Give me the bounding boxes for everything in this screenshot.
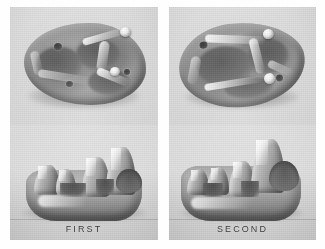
lateral-basin [269,161,299,191]
notch-anterior [203,183,223,197]
pit-a [54,43,62,50]
second-lateral-view [177,135,307,221]
panel-caption-first: FIRST [10,224,158,234]
first-lateral-view [20,139,148,221]
base-sheen [191,197,277,209]
cusp-tip-b [110,67,120,76]
second-occlusal-view [175,19,309,117]
specimen-panel-first: FIRST [10,7,158,240]
cusp-tip-a [120,27,131,37]
panel-caption-second: SECOND [169,224,316,234]
figure-plate: FIRST [0,0,325,249]
first-occlusal-view [18,19,150,117]
notch-posterior [96,179,114,195]
notch-posterior [241,181,259,197]
specimen-panel-second: SECOND [169,7,316,240]
pit-c [124,69,130,75]
lateral-basin [116,169,142,193]
pit-b [66,81,73,87]
base-sheen [38,195,108,207]
